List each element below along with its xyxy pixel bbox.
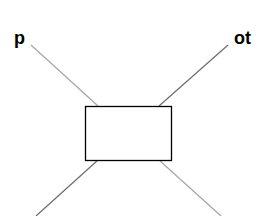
bottom-right-leg [159, 160, 221, 216]
bottom-left-leg [36, 160, 98, 216]
diagram-canvas: p ot [0, 0, 261, 216]
label-top-right: ot [234, 28, 251, 48]
top-right-leg [159, 45, 228, 106]
vertex-box [86, 107, 172, 161]
label-top-left: p [14, 28, 25, 48]
top-left-leg [31, 45, 98, 106]
